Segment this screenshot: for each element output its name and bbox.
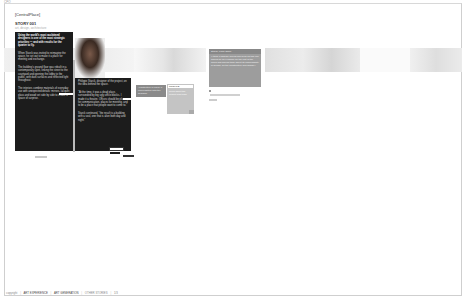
photo-strip-office <box>134 48 206 72</box>
photo-caption <box>35 156 47 158</box>
footer-link-art-experience[interactable]: ART EXPERIENCE <box>24 291 48 295</box>
photo-strip-interior <box>410 48 462 72</box>
footer-nav: copyright | ART EXPERIENCE | ART GENERAT… <box>6 291 120 295</box>
read-more-link[interactable] <box>109 147 124 151</box>
quote-bullet <box>209 90 211 92</box>
highlight-bar <box>123 98 132 100</box>
file-size-label <box>209 99 217 101</box>
footer-copyright: copyright <box>6 291 17 295</box>
footer-link-other-stories[interactable]: OTHER STORIES <box>85 291 108 295</box>
article-column-2: Philippe Starck, designer of the project… <box>75 78 131 151</box>
card-corner-button[interactable] <box>189 110 194 114</box>
profile-card-text: Read about the project and team <box>167 89 194 97</box>
window-tab[interactable]: CPO <box>4 0 11 4</box>
paragraph: The building's ground floor was rebuilt … <box>15 64 73 85</box>
next-link[interactable] <box>110 152 120 154</box>
download-link[interactable] <box>210 94 240 96</box>
article-column-1: Using the world's most acclaimed designe… <box>15 32 73 151</box>
highlight-bar <box>59 93 73 95</box>
paragraph: When Starck was invited to reimagine the… <box>15 50 73 64</box>
previous-link[interactable] <box>123 155 134 157</box>
footer-link-art-generation[interactable]: ART GENERATION <box>54 291 79 295</box>
brand-logo[interactable]: [CentralPlace] <box>15 12 40 17</box>
dark-card-text: Architecture in Paris: a conversation wi… <box>136 85 166 96</box>
designer-portrait <box>75 38 105 78</box>
footer-page-indicator: 1/3 <box>114 291 118 295</box>
dark-card[interactable]: Architecture in Paris: a conversation wi… <box>136 85 166 97</box>
story-subtitle: art, design, architecture <box>15 26 46 30</box>
photo-strip-building <box>265 48 360 72</box>
quote-box: Starck, Paris Office "I think a globally… <box>209 49 261 87</box>
photo-strip-sketch <box>360 48 410 72</box>
lead-text: Using the world's most acclaimed designe… <box>15 32 73 50</box>
profile-card-title: PROFILE <box>168 85 193 88</box>
paragraph: Starck continued, "the result is a build… <box>75 110 131 124</box>
quote-text: "I think a globally-sound firm such as t… <box>209 54 261 68</box>
intro-text: Philippe Starck, designer of the project… <box>75 78 131 89</box>
